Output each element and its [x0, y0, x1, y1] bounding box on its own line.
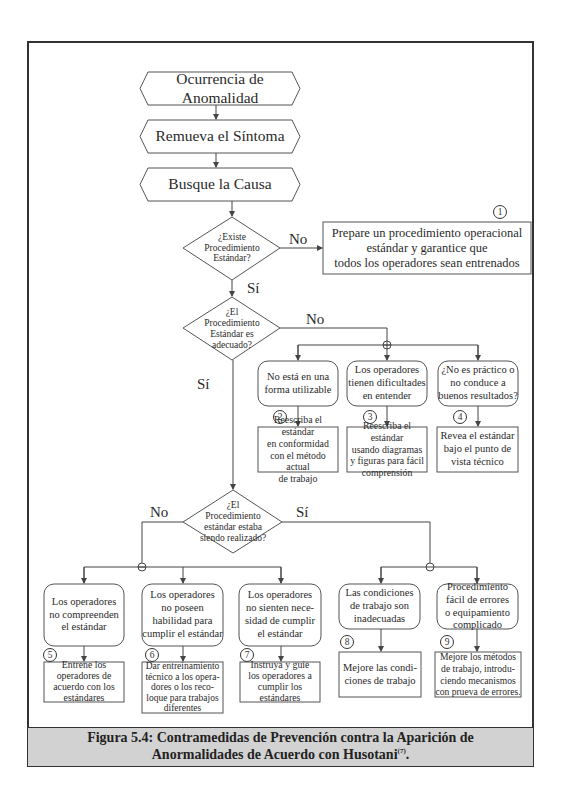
caption-line-1: Figura 5.4: Contramedidas de Prevención …: [87, 730, 474, 747]
d2-no-label: No: [306, 311, 324, 328]
caption-line-2: Anormalidades de Acuerdo con Husotani(7)…: [152, 747, 409, 764]
action-7: Instruya y guie los operadores a cumplir…: [240, 662, 320, 702]
cause-8: Las condiciones de trabajo son inadecuad…: [339, 584, 420, 629]
d1-yes-label: Sí: [247, 280, 260, 297]
step-number-4: 4: [453, 410, 467, 424]
decision-standard-followed: ¿El Procedimiento estándar estaba siendo…: [186, 496, 280, 548]
action-2: Reescriba el estándar en conformidad con…: [258, 427, 338, 472]
cause-5: Los operadores no compreenden el estánda…: [44, 584, 124, 646]
step-number-1: 1: [493, 205, 507, 219]
cause-7: Los operadores no sienten nece- sidad de…: [239, 584, 321, 646]
cause-3: Los operadores tienen dificultades en en…: [347, 361, 427, 406]
caption-line-2-text: Anormalidades de Acuerdo con Husotani: [152, 747, 398, 762]
action-9: Mejore los métodos de trabajo, introdu- …: [435, 652, 521, 697]
cause-9: Procedimiento fácil de errores o equipam…: [437, 584, 518, 629]
step-find-cause: Busque la Causa: [148, 168, 292, 201]
decision-standard-adequate: ¿El Procedimiento Estándar es adecuado?: [193, 303, 271, 355]
caption-reference: (7): [398, 747, 406, 755]
step-remove-symptom: Remueva el Síntoma: [148, 120, 292, 153]
step-number-6: 6: [145, 648, 159, 662]
d2-yes-label: Sí: [197, 376, 210, 393]
step-number-9: 9: [440, 635, 454, 649]
caption-end: .: [406, 747, 410, 762]
action-4: Revea el estándar bajo el punto de vista…: [437, 427, 518, 472]
figure-caption: Figura 5.4: Contramedidas de Prevención …: [28, 727, 533, 766]
step-number-8: 8: [340, 635, 354, 649]
d1-no-label: No: [289, 231, 307, 248]
d3-no-label: No: [150, 504, 168, 521]
action-6: Dar entreinamiento técnico a los opera- …: [142, 662, 223, 713]
cause-6: Los operadores no poseen habilidad para …: [142, 584, 223, 646]
cause-4: ¿No es práctico o no conduce a buenos re…: [438, 361, 518, 406]
cause-2: No está en una forma utilizable: [258, 361, 338, 406]
d3-yes-label: Sí: [296, 504, 309, 521]
action-prepare-standard: Prepare un procedimiento operacional est…: [323, 222, 531, 274]
action-5: Entrene los operadores de acuerdo con lo…: [44, 662, 124, 702]
action-3: Reescriba el estándar usando diagramas y…: [347, 427, 427, 472]
decision-standard-exists: ¿Existe Procedimiento Estándar?: [193, 226, 271, 270]
figure: Ocurrencia de Anomalidad Remueva el Sínt…: [0, 0, 562, 801]
action-8: Mejore las condi- ciones de trabajo: [339, 652, 421, 697]
step-anomaly-occurrence: Ocurrencia de Anomalidad: [148, 72, 292, 105]
